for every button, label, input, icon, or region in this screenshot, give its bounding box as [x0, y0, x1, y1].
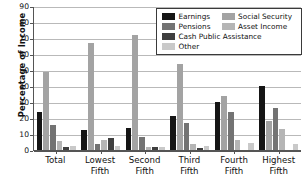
legend-label: Earnings: [179, 12, 211, 21]
bar: [293, 144, 299, 150]
x-tick-mark: [279, 150, 280, 154]
legend-label: Cash Public Assistance: [179, 32, 262, 41]
chart-figure: Percentage of Income 0102030405060708090…: [0, 0, 308, 194]
x-tick-mark: [101, 150, 102, 154]
legend-label: Pensions: [179, 22, 211, 31]
x-tick-label: FourthFifth: [212, 155, 257, 191]
y-tick-label: 60: [7, 51, 29, 59]
bar: [228, 112, 234, 150]
bar: [70, 146, 76, 150]
x-tick-label: ThirdFifth: [167, 155, 212, 191]
bar-group: [34, 7, 79, 150]
bar: [95, 144, 101, 150]
gridline: [34, 151, 301, 152]
legend-item: Earnings: [162, 12, 216, 21]
bar: [266, 121, 272, 150]
legend-swatch: [162, 23, 175, 31]
bar: [139, 137, 145, 150]
bar: [101, 140, 107, 150]
x-tick-label: HighestFifth: [256, 155, 301, 191]
bar: [273, 108, 279, 150]
bar: [50, 125, 56, 150]
legend-swatch: [162, 43, 175, 51]
y-tick-label: 50: [7, 67, 29, 75]
bar: [63, 147, 69, 150]
x-tick-label: SecondFifth: [122, 155, 167, 191]
y-tick-label: 70: [7, 35, 29, 43]
bar: [57, 141, 63, 150]
bar: [235, 140, 241, 150]
legend-item: Pensions: [162, 22, 216, 31]
legend-item: Asset Income: [222, 22, 297, 31]
bar: [88, 43, 94, 150]
legend-swatch: [162, 13, 175, 21]
legend-swatch: [222, 13, 235, 21]
bar-group: [79, 7, 124, 150]
bar: [170, 116, 176, 150]
bar: [221, 96, 227, 150]
bar: [132, 35, 138, 150]
bar: [152, 147, 158, 150]
legend-label: Asset Income: [238, 22, 287, 31]
bar: [37, 112, 43, 150]
legend-label: Social Security: [238, 12, 292, 21]
y-tick-label: 20: [7, 115, 29, 123]
legend-item: Cash Public Assistance: [162, 32, 297, 41]
y-tick-label: 80: [7, 19, 29, 27]
bar: [259, 86, 265, 150]
bar: [279, 129, 285, 150]
bar: [43, 72, 49, 150]
legend-swatch: [162, 33, 175, 41]
legend-swatch: [222, 23, 235, 31]
legend-item: Other: [162, 42, 297, 51]
x-tick-mark: [190, 150, 191, 154]
y-tick-label: 40: [7, 83, 29, 91]
bar: [159, 147, 165, 150]
x-tick-label: Total: [33, 155, 78, 191]
y-tick-label: 10: [7, 131, 29, 139]
bar: [215, 102, 221, 150]
legend: EarningsSocial SecurityPensionsAsset Inc…: [156, 8, 302, 55]
y-tick-label: 0: [7, 147, 29, 155]
bar: [197, 148, 203, 150]
bar: [146, 147, 152, 150]
bar: [81, 130, 87, 150]
bar: [115, 146, 121, 150]
bar: [248, 143, 254, 150]
x-tick-mark: [145, 150, 146, 154]
x-tick-mark: [234, 150, 235, 154]
bar: [190, 144, 196, 150]
bar: [177, 64, 183, 150]
bar: [108, 138, 114, 150]
bar: [204, 146, 210, 150]
legend-label: Other: [179, 42, 200, 51]
bar: [126, 128, 132, 150]
legend-item: Social Security: [222, 12, 297, 21]
x-tick-label: LowestFifth: [78, 155, 123, 191]
y-tick-label: 90: [7, 3, 29, 11]
y-tick-label: 30: [7, 99, 29, 107]
x-axis-tick-labels: TotalLowestFifthSecondFifthThirdFifthFou…: [33, 155, 301, 191]
bar: [184, 123, 190, 150]
x-tick-mark: [56, 150, 57, 154]
